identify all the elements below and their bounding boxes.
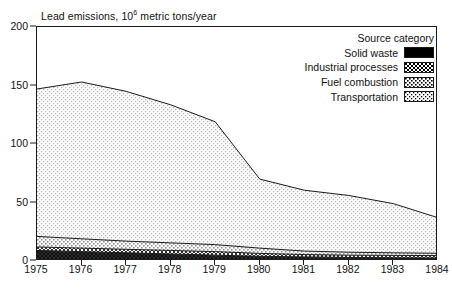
chart-title: Lead emissions, 106 metric tons/year <box>41 9 217 22</box>
legend-item-transportation[interactable]: Transportation <box>268 89 434 104</box>
x-tick-mark <box>348 260 349 265</box>
y-tick-label: 200 <box>2 20 28 32</box>
lead-emissions-figure: Lead emissions, 106 metric tons/year 050… <box>0 0 452 291</box>
y-tick-label: 150 <box>2 79 28 91</box>
legend-title-row: Source category <box>268 31 434 46</box>
legend-swatch-transportation <box>404 91 434 102</box>
x-tick-mark <box>81 260 82 265</box>
x-tick-mark <box>259 260 260 265</box>
legend-item-industrial_processes[interactable]: Industrial processes <box>268 60 434 75</box>
legend-title: Source category <box>358 32 434 44</box>
area-band-transportation <box>37 82 437 253</box>
x-tick-label: 1975 <box>24 263 47 275</box>
y-tick-label: 100 <box>2 137 28 149</box>
x-tick-label: 1984 <box>425 263 448 275</box>
legend-swatch-industrial_processes <box>404 62 434 73</box>
chart-title-base: Lead emissions, 10 <box>41 10 133 22</box>
legend-item-solid_waste[interactable]: Solid waste <box>268 46 434 61</box>
legend-item-label: Fuel combustion <box>321 76 404 88</box>
x-tick-mark <box>303 260 304 265</box>
legend-swatch-fuel_combustion <box>404 77 434 88</box>
legend-item-label: Transportation <box>331 91 404 103</box>
legend-item-label: Solid waste <box>344 47 404 59</box>
x-tick-mark <box>214 260 215 265</box>
x-tick-mark <box>125 260 126 265</box>
legend-swatch-solid_waste <box>404 47 434 58</box>
legend-item-label: Industrial processes <box>305 61 404 73</box>
legend-item-fuel_combustion[interactable]: Fuel combustion <box>268 75 434 90</box>
y-tick-label: 50 <box>2 196 28 208</box>
legend: Source category Solid wasteIndustrial pr… <box>268 31 434 104</box>
chart-title-tail: metric tons/year <box>137 10 216 22</box>
x-tick-mark <box>392 260 393 265</box>
x-tick-mark <box>170 260 171 265</box>
